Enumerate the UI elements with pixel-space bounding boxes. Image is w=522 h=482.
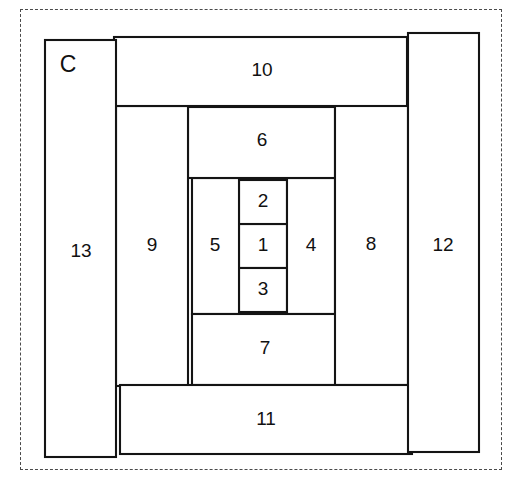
piece-8-label: 8 — [366, 233, 377, 254]
quilt-block-diagram: 12345678910111213 C — [0, 0, 522, 482]
piece-5-label: 5 — [210, 234, 221, 255]
piece-3-label: 3 — [258, 278, 269, 299]
piece-1-label: 1 — [258, 234, 269, 255]
piece-9-label: 9 — [147, 234, 158, 255]
piece-7-label: 7 — [260, 337, 271, 358]
piece-6-label: 6 — [257, 129, 268, 150]
piece-13-label: 13 — [70, 240, 91, 261]
piece-10-label: 10 — [251, 59, 272, 80]
figure-canvas: 12345678910111213 C — [0, 0, 522, 482]
piece-4-label: 4 — [306, 234, 317, 255]
block-svg: 12345678910111213 C — [0, 0, 522, 482]
piece-2-label: 2 — [258, 190, 269, 211]
piece-12-label: 12 — [432, 234, 453, 255]
piece-11-label: 11 — [256, 408, 276, 429]
block-id-label: C — [60, 51, 77, 77]
